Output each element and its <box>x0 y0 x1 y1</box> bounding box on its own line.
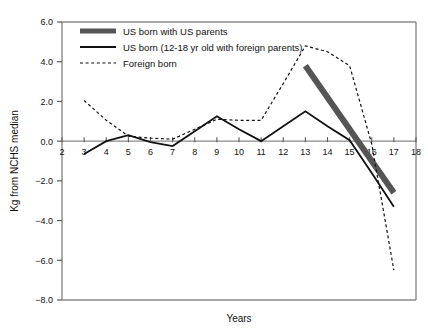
x-tick-label: 8 <box>192 147 197 157</box>
x-tick-label: 18 <box>411 147 421 157</box>
y-tick-label: 2.0 <box>40 97 53 107</box>
line-chart: 6.04.02.00.0−2.0−4.0−6.0−8.0 23456789101… <box>0 0 428 329</box>
x-tick-label: 6 <box>148 147 153 157</box>
series-line <box>84 46 394 270</box>
y-tick-label: −6.0 <box>35 256 53 266</box>
x-tick-label: 10 <box>234 147 244 157</box>
x-tick-label: 2 <box>59 147 64 157</box>
x-tick-label: 15 <box>345 147 355 157</box>
x-tick-label: 4 <box>104 147 109 157</box>
series-line <box>305 66 394 193</box>
y-tick-label: 0.0 <box>40 137 53 147</box>
x-tick-label: 9 <box>214 147 219 157</box>
data-series-group <box>84 46 394 270</box>
chart-figure: 6.04.02.00.0−2.0−4.0−6.0−8.0 23456789101… <box>0 0 428 329</box>
y-axis-title: Kg from NCHS median <box>9 110 20 212</box>
y-tick-label: 6.0 <box>40 17 53 27</box>
y-tick-label: 4.0 <box>40 57 53 67</box>
x-tick-label: 14 <box>322 147 332 157</box>
x-tick-label: 5 <box>126 147 131 157</box>
x-tick-label: 17 <box>389 147 399 157</box>
y-tick-label: −4.0 <box>35 216 53 226</box>
legend-label: US born (12-18 yr old with foreign paren… <box>123 42 303 53</box>
x-tick-label: 13 <box>300 147 310 157</box>
y-tick-label: −8.0 <box>35 295 53 305</box>
legend-label: Foreign born <box>123 58 177 69</box>
x-axis-title: Years <box>226 313 251 324</box>
y-axis: 6.04.02.00.0−2.0−4.0−6.0−8.0 <box>35 17 62 305</box>
x-tick-label: 7 <box>170 147 175 157</box>
x-tick-label: 12 <box>278 147 288 157</box>
x-tick-label: 11 <box>256 147 265 157</box>
chart-legend: US born with US parentsUS born (12-18 yr… <box>80 26 303 69</box>
legend-label: US born with US parents <box>123 26 228 37</box>
y-tick-label: −2.0 <box>35 176 53 186</box>
